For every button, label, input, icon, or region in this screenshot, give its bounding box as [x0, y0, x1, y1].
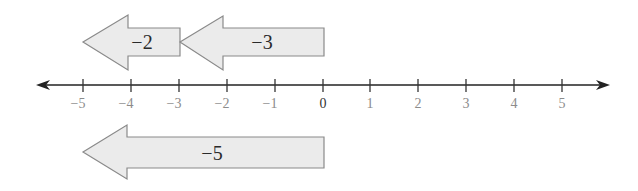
tick-label: 2 [415, 96, 422, 111]
tick-label: −4 [119, 96, 134, 111]
arrow-label: −3 [251, 31, 272, 53]
tick-label: 1 [367, 96, 374, 111]
tick-labels: −5 −4 −3 −2 −1 0 1 2 3 4 5 [71, 96, 566, 111]
tick-label: −1 [263, 96, 278, 111]
tick-label: 0 [320, 96, 327, 111]
arrow-minus-2: −2 [83, 15, 180, 70]
tick-label: 5 [559, 96, 566, 111]
arrow-label: −2 [131, 31, 152, 53]
tick-label: −3 [167, 96, 182, 111]
arrow-minus-5: −5 [83, 125, 324, 179]
number-line: −5 −4 −3 −2 −1 0 1 2 3 4 5 [36, 79, 610, 111]
arrow-minus-3: −3 [180, 16, 324, 70]
number-line-diagram: −2 −3 −5 −4 −3 −2 −1 0 [0, 0, 638, 191]
tick-label: −5 [71, 96, 86, 111]
tick-label: 3 [463, 96, 470, 111]
tick-label: −2 [215, 96, 230, 111]
tick-label: 4 [511, 96, 518, 111]
arrow-label: −5 [201, 142, 222, 164]
